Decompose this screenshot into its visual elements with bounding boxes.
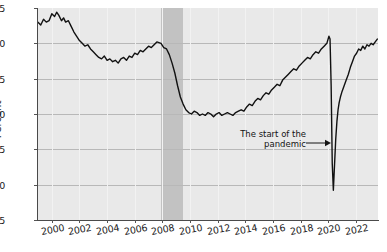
annotation-line-1: The start of the	[222, 129, 306, 139]
x-tick-mark	[79, 220, 80, 223]
y-tick-label: 70.0	[0, 179, 5, 190]
x-tick-label: 2010	[178, 222, 203, 237]
y-tick-mark	[34, 149, 37, 150]
x-tick-mark	[218, 220, 219, 223]
x-tick-mark	[328, 220, 329, 223]
y-tick-mark	[34, 185, 37, 186]
x-tick-mark	[273, 220, 274, 223]
x-tick-label: 2016	[261, 222, 286, 237]
y-tick-label: 77.5	[0, 73, 5, 84]
annotation-line-2: pandemic	[222, 139, 306, 149]
y-tick-mark	[34, 8, 37, 9]
y-tick-mark	[34, 114, 37, 115]
x-tick-mark	[190, 220, 191, 223]
y-tick-label: 82.5	[0, 3, 5, 14]
annotation-arrow-icon	[306, 138, 332, 148]
x-tick-mark	[245, 220, 246, 223]
y-tick-mark	[34, 79, 37, 80]
x-tick-mark	[162, 220, 163, 223]
x-tick-mark	[52, 220, 53, 223]
x-tick-label: 2012	[206, 222, 231, 237]
y-tick-mark	[34, 43, 37, 44]
pandemic-annotation: The start of the pandemic	[222, 129, 306, 149]
y-tick-label: 72.5	[0, 144, 5, 155]
x-tick-label: 2020	[316, 222, 341, 237]
x-tick-mark	[356, 220, 357, 223]
x-tick-label: 2006	[123, 222, 148, 237]
x-tick-label: 2000	[40, 222, 65, 237]
x-tick-label: 2022	[344, 222, 369, 237]
data-line-series	[38, 8, 378, 220]
y-tick-label: 67.5	[0, 215, 5, 226]
x-tick-label: 2018	[289, 222, 314, 237]
x-tick-label: 2002	[68, 222, 93, 237]
chart-figure: 67.570.072.575.077.580.082.5 20002002200…	[0, 0, 387, 252]
x-tick-label: 2004	[95, 222, 120, 237]
x-tick-label: 2014	[233, 222, 258, 237]
x-tick-label: 2008	[151, 222, 176, 237]
plot-area	[38, 8, 378, 220]
y-tick-label: 80.0	[0, 38, 5, 49]
y-tick-mark	[34, 220, 37, 221]
y-axis-spine	[37, 8, 38, 221]
x-tick-mark	[107, 220, 108, 223]
x-tick-mark	[301, 220, 302, 223]
y-axis-title: Percent	[0, 101, 3, 139]
x-tick-mark	[135, 220, 136, 223]
